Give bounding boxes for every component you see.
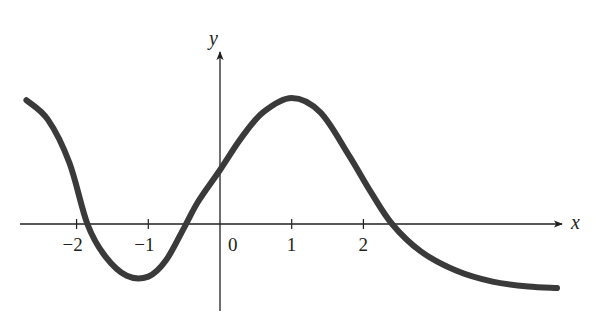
x-tick-label: −2 bbox=[63, 235, 83, 254]
x-tick-label: 2 bbox=[358, 235, 368, 254]
x-tick-label: 1 bbox=[287, 235, 297, 254]
x-tick-label: 0 bbox=[228, 235, 238, 254]
function-graph bbox=[0, 0, 593, 327]
function-curve bbox=[26, 98, 557, 288]
x-tick-label: −1 bbox=[134, 235, 154, 254]
x-axis-label: x bbox=[571, 212, 580, 232]
y-axis-label: y bbox=[209, 28, 218, 48]
